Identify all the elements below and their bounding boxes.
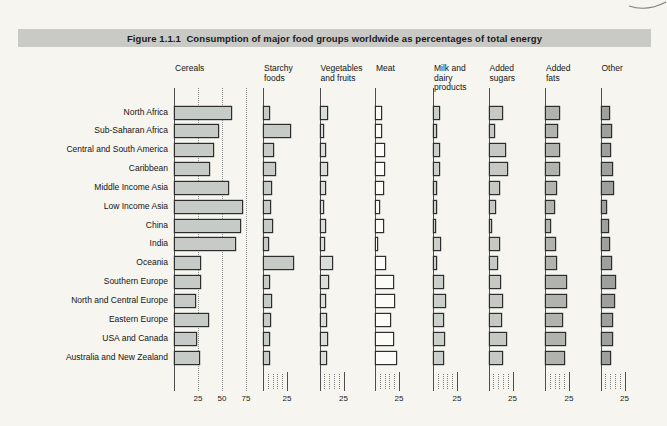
- axis-tick-label-25: 25: [502, 394, 524, 403]
- bar-milk-and-dairy-products-china: [433, 219, 436, 233]
- bar-added-sugars-eastern-europe: [489, 313, 503, 327]
- page-edge-artifact: [627, 0, 667, 14]
- bar-milk-and-dairy-products-usa-and-canada: [433, 332, 445, 346]
- row-label-sub-saharan-africa: Sub-Saharan Africa: [10, 123, 168, 137]
- bar-starchy-foods-central-and-south-america: [263, 143, 274, 157]
- bar-added-fats-australia-and-new-zealand: [545, 351, 565, 365]
- bar-other-eastern-europe: [601, 313, 614, 327]
- bar-added-sugars-middle-income-asia: [489, 181, 501, 195]
- column-header-added-fats: Added fats: [546, 64, 571, 83]
- bar-milk-and-dairy-products-eastern-europe: [433, 313, 444, 327]
- bar-other-caribbean: [601, 162, 614, 176]
- major-tick-25: [457, 372, 458, 391]
- bar-meat-australia-and-new-zealand: [375, 351, 397, 365]
- row-label-caribbean: Caribbean: [10, 161, 168, 175]
- bar-meat-southern-europe: [375, 275, 394, 289]
- bar-starchy-foods-north-africa: [263, 106, 270, 120]
- bar-vegetables-and-fruits-north-africa: [320, 106, 329, 120]
- bar-vegetables-and-fruits-oceania: [320, 256, 334, 270]
- bar-vegetables-and-fruits-caribbean: [320, 162, 329, 176]
- bar-added-fats-middle-income-asia: [545, 181, 557, 195]
- bar-starchy-foods-eastern-europe: [263, 313, 271, 327]
- bar-meat-central-and-south-america: [375, 143, 385, 157]
- minor-tick-10: [498, 374, 499, 389]
- bar-meat-sub-saharan-africa: [375, 124, 382, 138]
- row-label-china: China: [10, 218, 168, 232]
- minor-tick-20: [282, 374, 283, 389]
- bar-added-fats-india: [545, 237, 556, 251]
- bar-added-fats-low-income-asia: [545, 200, 555, 214]
- minor-tick-15: [389, 374, 390, 389]
- bar-milk-and-dairy-products-north-and-central-europe: [433, 294, 446, 308]
- bar-vegetables-and-fruits-eastern-europe: [320, 313, 328, 327]
- bar-meat-eastern-europe: [375, 313, 391, 327]
- row-label-southern-europe: Southern Europe: [10, 274, 168, 288]
- bar-starchy-foods-usa-and-canada: [263, 332, 270, 346]
- bar-meat-low-income-asia: [375, 200, 380, 214]
- axis-tick-label-25: 25: [333, 394, 355, 403]
- bar-cereals-caribbean: [174, 162, 210, 176]
- minor-tick-15: [559, 374, 560, 389]
- bar-cereals-middle-income-asia: [174, 181, 229, 195]
- bar-cereals-australia-and-new-zealand: [174, 351, 200, 365]
- bar-other-india: [601, 237, 611, 251]
- minor-tick-5: [380, 374, 381, 389]
- bar-meat-caribbean: [375, 162, 385, 176]
- bar-milk-and-dairy-products-middle-income-asia: [433, 181, 437, 195]
- bar-starchy-foods-australia-and-new-zealand: [263, 351, 270, 365]
- minor-tick-5: [324, 374, 325, 389]
- row-label-eastern-europe: Eastern Europe: [10, 312, 168, 326]
- major-tick-25: [287, 372, 288, 391]
- bar-milk-and-dairy-products-low-income-asia: [433, 200, 437, 214]
- bar-added-sugars-oceania: [489, 256, 499, 270]
- major-tick-25: [513, 372, 514, 391]
- bar-vegetables-and-fruits-china: [320, 219, 327, 233]
- minor-tick-5: [268, 374, 269, 389]
- column-header-starchy-foods: Starchy foods: [264, 64, 293, 83]
- minor-tick-15: [447, 374, 448, 389]
- axis-tick-label-25: 25: [187, 394, 209, 403]
- bar-other-sub-saharan-africa: [601, 124, 613, 138]
- bar-added-fats-oceania: [545, 256, 557, 270]
- axis-tick-label-25: 25: [446, 394, 468, 403]
- bar-milk-and-dairy-products-oceania: [433, 256, 437, 270]
- figure-title: Figure 1.1.1 Consumption of major food g…: [127, 33, 542, 44]
- row-label-low-income-asia: Low Income Asia: [10, 199, 168, 213]
- minor-tick-20: [339, 374, 340, 389]
- bar-milk-and-dairy-products-india: [433, 237, 441, 251]
- bar-added-sugars-north-and-central-europe: [489, 294, 503, 308]
- minor-tick-20: [394, 374, 395, 389]
- bar-meat-india: [375, 237, 378, 251]
- minor-tick-15: [277, 374, 278, 389]
- bar-milk-and-dairy-products-caribbean: [433, 162, 440, 176]
- bar-vegetables-and-fruits-usa-and-canada: [320, 332, 329, 346]
- minor-tick-10: [385, 374, 386, 389]
- bar-other-north-africa: [601, 106, 611, 120]
- bar-meat-usa-and-canada: [375, 332, 394, 346]
- bar-cereals-china: [174, 219, 241, 233]
- minor-tick-20: [452, 374, 453, 389]
- row-label-oceania: Oceania: [10, 255, 168, 269]
- bar-added-fats-southern-europe: [545, 275, 567, 289]
- bar-added-fats-north-and-central-europe: [545, 294, 567, 308]
- bar-cereals-oceania: [174, 256, 201, 270]
- bar-cereals-sub-saharan-africa: [174, 124, 219, 138]
- bar-other-usa-and-canada: [601, 332, 614, 346]
- minor-tick-10: [273, 374, 274, 389]
- bar-added-fats-china: [545, 219, 551, 233]
- bar-other-southern-europe: [601, 275, 616, 289]
- axis-tick-label-25: 25: [558, 394, 580, 403]
- axis-tick-label-75: 75: [235, 394, 257, 403]
- bar-added-fats-central-and-south-america: [545, 143, 560, 157]
- bar-starchy-foods-middle-income-asia: [263, 181, 272, 195]
- axis-tick-label-25: 25: [614, 394, 636, 403]
- bar-starchy-foods-low-income-asia: [263, 200, 271, 214]
- bar-cereals-eastern-europe: [174, 313, 209, 327]
- bar-milk-and-dairy-products-central-and-south-america: [433, 143, 440, 157]
- minor-tick-10: [610, 374, 611, 389]
- bar-milk-and-dairy-products-sub-saharan-africa: [433, 124, 437, 138]
- bar-vegetables-and-fruits-india: [320, 237, 326, 251]
- minor-tick-20: [508, 374, 509, 389]
- bar-added-sugars-india: [489, 237, 501, 251]
- bar-vegetables-and-fruits-middle-income-asia: [320, 181, 327, 195]
